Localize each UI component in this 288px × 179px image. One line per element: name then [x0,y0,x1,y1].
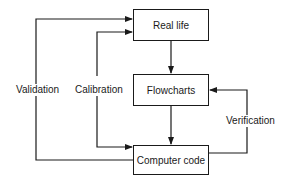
edge-label-validation: Validation [15,84,60,96]
arrow-calibration-bottom [97,90,132,147]
edge-label-verification: Verification [225,115,276,127]
edge-label-calibration: Calibration [74,84,124,96]
node-computer-code: Computer code [133,145,209,175]
node-real-life-label: Real life [153,20,189,31]
node-flowcharts-label: Flowcharts [147,85,195,96]
node-computer-code-label: Computer code [137,155,205,166]
node-flowcharts: Flowcharts [133,74,209,106]
node-real-life: Real life [133,9,209,41]
arrow-calibration-top [97,32,132,76]
